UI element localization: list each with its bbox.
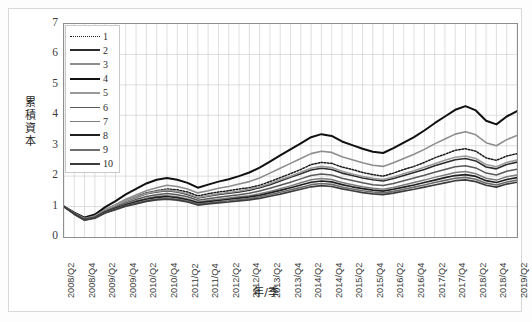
legend-swatch-7 <box>70 121 100 122</box>
y-tick-label: 7 <box>36 16 58 28</box>
legend-item-1[interactable]: 1 <box>70 29 117 43</box>
legend-item-7[interactable]: 7 <box>70 114 117 128</box>
legend-swatch-3 <box>70 63 100 65</box>
y-tick-label: 0 <box>36 229 58 241</box>
legend-label-6: 6 <box>103 102 108 113</box>
legend-swatch-5 <box>70 92 100 94</box>
legend-item-6[interactable]: 6 <box>70 100 117 114</box>
legend-label-9: 9 <box>103 144 108 155</box>
legend-swatch-1 <box>70 36 100 37</box>
y-tick-label: 6 <box>36 46 58 58</box>
legend-swatch-4 <box>70 78 100 80</box>
legend-item-9[interactable]: 9 <box>70 143 117 157</box>
legend-item-2[interactable]: 2 <box>70 43 117 57</box>
chart-root: 累積資本 01234567 2008/Q22008/Q42009/Q22009/… <box>0 0 532 322</box>
legend-label-1: 1 <box>103 31 108 42</box>
y-tick-label: 4 <box>36 107 58 119</box>
legend-label-4: 4 <box>103 73 108 84</box>
plot-area <box>63 23 518 238</box>
legend-label-7: 7 <box>103 116 108 127</box>
y-tick-label: 3 <box>36 138 58 150</box>
legend-label-10: 10 <box>103 158 113 169</box>
legend: 12345678910 <box>65 25 120 173</box>
legend-label-3: 3 <box>103 59 108 70</box>
legend-swatch-2 <box>70 49 100 51</box>
y-tick-label: 5 <box>36 77 58 89</box>
legend-label-5: 5 <box>103 87 108 98</box>
y-tick-label: 1 <box>36 199 58 211</box>
legend-swatch-9 <box>70 149 100 151</box>
legend-item-10[interactable]: 10 <box>70 157 117 171</box>
legend-swatch-10 <box>70 163 100 165</box>
legend-swatch-8 <box>70 134 100 136</box>
legend-swatch-6 <box>70 107 100 108</box>
legend-item-5[interactable]: 5 <box>70 86 117 100</box>
y-tick-label: 2 <box>36 168 58 180</box>
legend-item-3[interactable]: 3 <box>70 57 117 71</box>
legend-item-8[interactable]: 8 <box>70 128 117 142</box>
series-canvas <box>64 24 517 237</box>
legend-item-4[interactable]: 4 <box>70 72 117 86</box>
x-axis-title: 年/季 <box>0 283 532 299</box>
legend-label-2: 2 <box>103 45 108 56</box>
legend-label-8: 8 <box>103 130 108 141</box>
